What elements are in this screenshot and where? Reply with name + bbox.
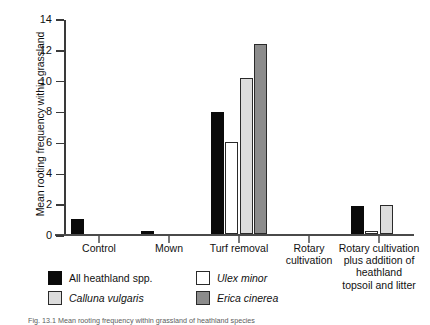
y-axis-tick-label: 0 (30, 228, 52, 242)
legend-swatch-icon (48, 271, 62, 285)
legend-entry: Erica cinerea (196, 291, 348, 305)
y-axis-tick-label: 14 (30, 12, 52, 26)
bar-4-2 (380, 205, 393, 234)
y-axis-tick-label: 12 (30, 43, 52, 57)
legend-label: Ulex minor (217, 272, 267, 284)
bar-2-1 (225, 142, 238, 235)
legend-entry: Calluna vulgaris (48, 291, 196, 305)
y-axis-tick: 14 (56, 19, 64, 20)
y-axis-line (64, 20, 66, 236)
x-axis-line (55, 234, 414, 236)
y-axis-tick: 0 (56, 235, 64, 236)
x-axis-category-line: Rotary cultivation (329, 242, 429, 254)
bar-4-0 (351, 206, 364, 234)
legend-swatch-icon (196, 271, 210, 285)
legend-label: Erica cinerea (217, 292, 278, 304)
y-axis-tick: 6 (56, 143, 64, 144)
y-axis-tick-label: 2 (30, 197, 52, 211)
y-axis-tick: 12 (56, 50, 64, 51)
figure-bar-chart: Mean rooting frequency within grassland … (0, 0, 430, 325)
plot-area: 02468101214 (64, 20, 414, 236)
bar-4-1 (365, 231, 378, 234)
bar-1-0 (141, 231, 154, 234)
legend-label: All heathland spp. (69, 272, 152, 284)
y-axis-tick: 8 (56, 112, 64, 113)
bar-2-2 (240, 78, 253, 234)
y-axis-tick-label: 6 (30, 135, 52, 149)
legend-entry: All heathland spp. (48, 271, 196, 285)
y-axis-tick-label: 8 (30, 104, 52, 118)
x-axis-category-line: plus addition of (329, 254, 429, 266)
figure-caption: Fig. 13.1 Mean rooting frequency within … (28, 317, 426, 325)
y-axis-tick: 4 (56, 174, 64, 175)
legend-entry: Ulex minor (196, 271, 348, 285)
bar-2-0 (211, 112, 224, 234)
bar-0-0 (71, 219, 84, 234)
y-axis-tick: 10 (56, 81, 64, 82)
chart-legend: All heathland spp.Ulex minorCalluna vulg… (48, 268, 348, 308)
bar-2-3 (254, 44, 267, 234)
legend-swatch-icon (196, 291, 210, 305)
legend-swatch-icon (48, 291, 62, 305)
y-axis-tick-label: 4 (30, 166, 52, 180)
y-axis-tick: 2 (56, 204, 64, 205)
y-axis-tick-label: 10 (30, 74, 52, 88)
legend-label: Calluna vulgaris (69, 292, 144, 304)
